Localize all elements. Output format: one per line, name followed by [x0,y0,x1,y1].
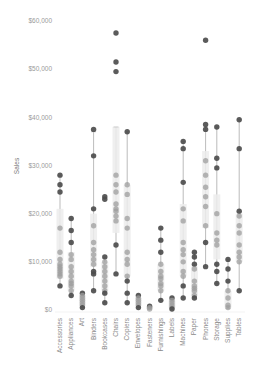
data-point[interactable] [237,259,242,264]
data-point[interactable] [214,165,219,170]
data-point[interactable] [181,283,186,288]
data-point[interactable] [102,290,107,295]
data-point[interactable] [125,216,130,221]
data-point[interactable] [102,264,107,269]
data-point[interactable] [113,242,118,247]
data-point[interactable] [125,129,130,134]
data-point[interactable] [125,278,130,283]
data-point[interactable] [158,269,163,274]
data-point[interactable] [214,269,219,274]
data-point[interactable] [237,117,242,122]
data-point[interactable] [225,305,230,310]
data-point[interactable] [158,283,163,288]
data-point[interactable] [237,209,242,214]
data-point[interactable] [91,240,96,245]
data-point[interactable] [91,223,96,228]
data-point[interactable] [181,146,186,151]
data-point[interactable] [113,69,118,74]
data-point[interactable] [237,146,242,151]
data-point[interactable] [57,172,62,177]
data-point[interactable] [181,269,186,274]
data-point[interactable] [125,274,130,279]
data-point[interactable] [57,250,62,255]
data-point[interactable] [102,274,107,279]
data-point[interactable] [158,298,163,303]
data-point[interactable] [225,295,230,300]
data-point[interactable] [181,295,186,300]
data-point[interactable] [158,250,163,255]
data-point[interactable] [203,184,208,189]
data-point[interactable] [192,278,197,283]
data-point[interactable] [237,288,242,293]
data-point[interactable] [237,254,242,259]
data-point[interactable] [147,306,152,311]
data-point[interactable] [192,262,197,267]
data-point[interactable] [192,266,197,271]
data-point[interactable] [91,153,96,158]
data-point[interactable] [69,228,74,233]
data-point[interactable] [225,266,230,271]
data-point[interactable] [91,206,96,211]
data-point[interactable] [57,257,62,262]
data-point[interactable] [125,225,130,230]
data-point[interactable] [102,197,107,202]
data-point[interactable] [203,240,208,245]
data-point[interactable] [57,189,62,194]
data-point[interactable] [192,288,197,293]
data-point[interactable] [158,262,163,267]
data-point[interactable] [125,192,130,197]
data-point[interactable] [125,262,130,267]
data-point[interactable] [225,278,230,283]
data-point[interactable] [192,250,197,255]
data-point[interactable] [203,38,208,43]
data-point[interactable] [192,254,197,259]
data-point[interactable] [69,252,74,257]
data-point[interactable] [125,290,130,295]
data-point[interactable] [169,306,174,311]
data-point[interactable] [237,230,242,235]
data-point[interactable] [181,247,186,252]
data-point[interactable] [203,194,208,199]
data-point[interactable] [91,247,96,252]
data-point[interactable] [102,259,107,264]
data-point[interactable] [214,237,219,242]
data-point[interactable] [113,30,118,35]
data-point[interactable] [69,283,74,288]
data-point[interactable] [181,139,186,144]
data-point[interactable] [69,274,74,279]
data-point[interactable] [203,127,208,132]
data-point[interactable] [214,242,219,247]
data-point[interactable] [214,211,219,216]
data-point[interactable] [91,127,96,132]
data-point[interactable] [237,242,242,247]
data-point[interactable] [225,257,230,262]
data-point[interactable] [158,237,163,242]
data-point[interactable] [181,274,186,279]
data-point[interactable] [158,225,163,230]
data-point[interactable] [69,288,74,293]
data-point[interactable] [136,305,141,310]
data-point[interactable] [214,281,219,286]
data-point[interactable] [203,158,208,163]
data-point[interactable] [57,283,62,288]
data-point[interactable] [203,172,208,177]
data-point[interactable] [113,218,118,223]
data-point[interactable] [57,182,62,187]
data-point[interactable] [91,252,96,257]
data-point[interactable] [113,182,118,187]
data-point[interactable] [113,271,118,276]
data-point[interactable] [214,156,219,161]
data-point[interactable] [102,269,107,274]
data-point[interactable] [237,213,242,218]
data-point[interactable] [91,271,96,276]
data-point[interactable] [91,262,96,267]
data-point[interactable] [214,262,219,267]
data-point[interactable] [203,204,208,209]
data-point[interactable] [113,201,118,206]
data-point[interactable] [113,172,118,177]
data-point[interactable] [181,252,186,257]
data-point[interactable] [69,269,74,274]
data-point[interactable] [113,209,118,214]
data-point[interactable] [181,218,186,223]
data-point[interactable] [203,264,208,269]
